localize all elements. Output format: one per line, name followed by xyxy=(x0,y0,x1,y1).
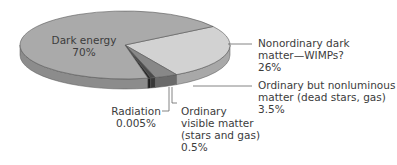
label-visible-matter: Ordinaryvisible matter(stars and gas)0.5… xyxy=(181,105,260,153)
leader-visible xyxy=(172,87,177,103)
label-radiation: Radiation0.005% xyxy=(111,105,161,129)
label-wimps: Nonordinary darkmatter—WIMPs?26% xyxy=(258,37,350,73)
label-nonluminous: Ordinary but nonluminousmatter (dead sta… xyxy=(258,79,395,115)
pie-side-3 xyxy=(151,78,156,88)
pie-chart: Dark energy70%Nonordinary darkmatter—WIM… xyxy=(0,0,397,165)
pie-side-4 xyxy=(148,78,151,88)
leader-radiation xyxy=(162,87,169,111)
